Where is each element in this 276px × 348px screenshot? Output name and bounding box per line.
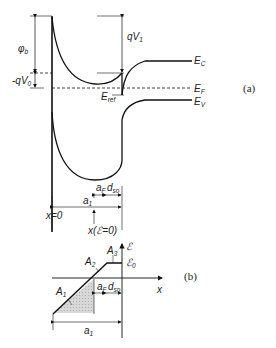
conduction-band-right [122,61,192,95]
label-Ef: EF [194,83,206,95]
conduction-band-curve [52,17,122,84]
panel-b-tag: (b) [184,270,197,283]
label-A2: A2 [84,256,96,268]
label-x-field-zero: x(ℰ=0) [87,225,117,236]
valence-band-curve [52,100,192,180]
panel-b: ℰ ℰ0 x A1 A2 A3 aF dso a1 (b) [52,241,197,338]
label-qV1: qV1 [127,31,143,43]
label-phi-b: φb [18,43,29,55]
label-aF: aF [96,182,107,194]
label-Eref: Eref [101,91,116,103]
panel-a: φb -qV0 qV1 EC EF EV Eref (a) aF dso a1 … [12,16,256,236]
label-x-axis: x [156,284,163,295]
label-dso: dso [107,182,120,194]
label-Ec: EC [194,55,206,67]
label-field-0: ℰ0 [126,257,136,269]
panel-a-tag: (a) [243,82,256,95]
label-A3: A3 [106,245,118,257]
label-b-a1: a1 [84,325,94,337]
label-x0: x=0 [45,210,63,221]
label-b-aF: aF [97,281,108,293]
band-diagram-figure: φb -qV0 qV1 EC EF EV Eref (a) aF dso a1 … [0,0,276,348]
label-A1: A1 [55,286,67,298]
label-b-dso: dso [108,281,121,293]
label-field-axis: ℰ [126,241,133,252]
label-a1: a1 [83,195,93,207]
label-Ev: EV [194,96,206,108]
label-neg-qV0: -qV0 [12,75,32,87]
